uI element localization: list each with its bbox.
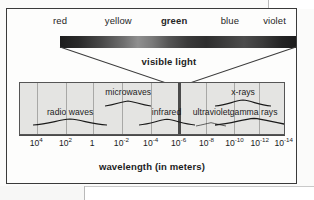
band-label-gamma-rays: gamma rays	[230, 107, 278, 117]
color-label-yellow: yellow	[105, 14, 132, 28]
tick-exponent: -6	[181, 136, 187, 143]
axis-tick-label: 10-4	[143, 138, 158, 148]
spectrum-gridline	[37, 83, 38, 134]
page-edge-bottom-notch	[0, 186, 85, 200]
visible-light-label: visible light	[0, 56, 314, 67]
axis-tick-label: 102	[59, 138, 72, 148]
color-label-violet: violet	[263, 14, 286, 28]
visible-light-text: visible light	[118, 56, 197, 67]
axis-tick-label: 10-10	[225, 138, 244, 148]
band-label-x-rays: x-rays	[231, 87, 255, 97]
tick-mantissa: 1	[90, 138, 95, 148]
tick-exponent: -14	[284, 136, 293, 143]
wave-glyph-icon	[139, 116, 195, 126]
tick-exponent: 4	[39, 136, 42, 143]
wave-glyph-icon	[105, 97, 151, 107]
tick-exponent: -4	[153, 136, 159, 143]
band-label-microwaves: microwaves	[105, 87, 151, 97]
spectrum-band: radio wavesmicrowavesinfraredultraviolet…	[19, 82, 285, 135]
band-label-radio-waves: radio waves	[47, 107, 93, 117]
tick-mantissa: 10	[171, 138, 181, 148]
axis-tick-label: 10-14	[274, 138, 293, 148]
tick-exponent: -12	[260, 136, 269, 143]
tick-exponent: -10	[235, 136, 244, 143]
color-label-blue: blue	[221, 14, 239, 28]
axis-tick-label: 104	[30, 138, 43, 148]
band-label-ultraviolet: ultraviolet	[193, 107, 230, 117]
color-label-green: green	[161, 14, 187, 28]
tick-mantissa: 10	[59, 138, 69, 148]
tick-mantissa: 10	[274, 138, 284, 148]
axis-tick-label: 1	[90, 138, 95, 148]
axis-tick-label: 10-12	[250, 138, 269, 148]
wave-glyph-icon	[196, 117, 226, 127]
visible-light-gradient-bar	[60, 36, 296, 48]
tick-mantissa: 10	[30, 138, 40, 148]
tick-mantissa: 10	[143, 138, 153, 148]
band-label-infrared: infrared	[152, 107, 182, 117]
axis-tick-label: 10-8	[199, 138, 214, 148]
tick-mantissa: 10	[199, 138, 209, 148]
tick-exponent: -8	[209, 136, 215, 143]
tick-exponent: 2	[69, 136, 72, 143]
axis-tick-label: 10-2	[114, 138, 129, 148]
wave-glyph-icon	[215, 97, 271, 107]
tick-mantissa: 10	[250, 138, 260, 148]
wave-glyph-icon	[33, 116, 107, 126]
color-label-red: red	[53, 14, 67, 28]
axis-tick-labels: 104102110-210-410-610-810-1010-1210-14	[19, 138, 285, 152]
tick-mantissa: 10	[114, 138, 124, 148]
tick-exponent: -2	[123, 136, 129, 143]
tick-mantissa: 10	[225, 138, 235, 148]
axis-title: wavelength (in meters)	[19, 161, 285, 172]
axis-tick-label: 10-6	[171, 138, 186, 148]
visible-light-color-labels: redyellowgreenblueviolet	[34, 14, 282, 28]
wave-glyph-icon	[215, 116, 285, 126]
